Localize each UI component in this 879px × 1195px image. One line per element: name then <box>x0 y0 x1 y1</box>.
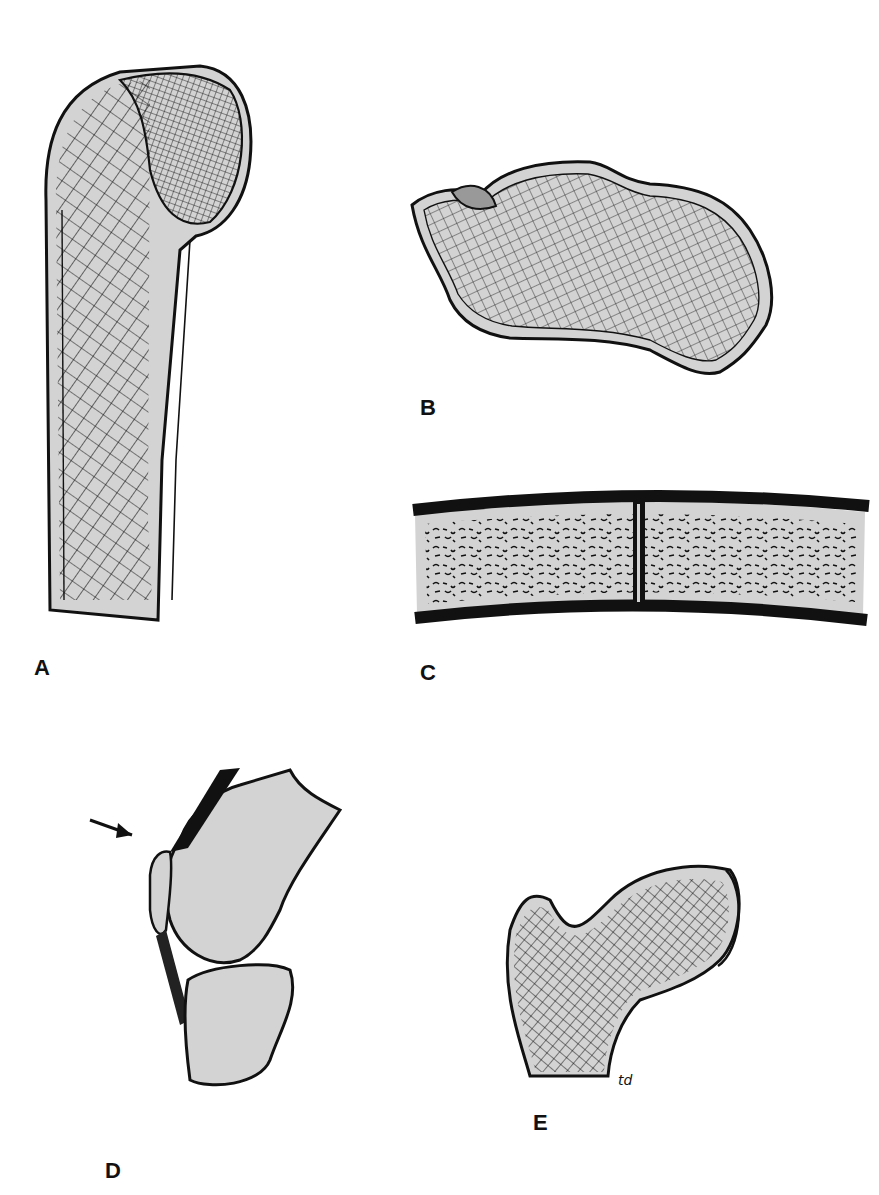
panel-label-b: B <box>420 395 436 421</box>
panel-b-calcaneus <box>400 150 790 390</box>
illustrator-signature: td <box>618 1072 632 1088</box>
panel-d-knee <box>70 760 360 1090</box>
bone-section-illustration <box>405 490 875 630</box>
arrow-icon <box>116 823 132 838</box>
panel-label-a: A <box>34 655 50 681</box>
panel-c-bone-section <box>405 490 875 630</box>
panel-label-c: C <box>420 660 436 686</box>
panel-label-d: D <box>105 1158 121 1184</box>
panel-label-e: E <box>533 1110 548 1136</box>
panel-e-femur <box>490 840 750 1080</box>
calcaneus-illustration <box>400 150 790 390</box>
panel-a-humerus <box>0 0 300 640</box>
humerus-illustration <box>0 0 300 640</box>
knee-illustration <box>70 760 360 1090</box>
femur-illustration <box>490 840 750 1080</box>
